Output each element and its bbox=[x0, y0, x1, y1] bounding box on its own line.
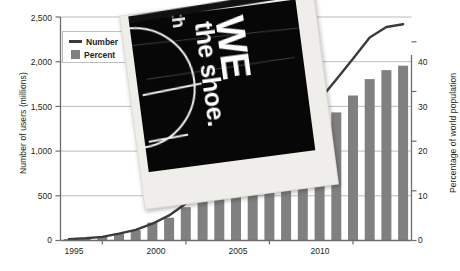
bar bbox=[164, 218, 174, 241]
bar bbox=[365, 79, 375, 240]
legend-item-number: Number bbox=[69, 35, 118, 48]
legend-label-number: Number bbox=[86, 37, 118, 47]
legend-item-percent: Percent bbox=[69, 48, 115, 61]
bar bbox=[398, 66, 408, 241]
bar bbox=[214, 194, 224, 241]
photo-image-area: th WE the shoe. bbox=[129, 0, 315, 172]
bar bbox=[181, 207, 191, 240]
bar bbox=[381, 70, 391, 240]
legend-line-swatch-icon bbox=[69, 40, 82, 43]
legend-label-percent: Percent bbox=[84, 50, 115, 60]
overlay-photo: th WE the shoe. bbox=[119, 0, 339, 210]
chart-figure: Number of users (millions) Percentage of… bbox=[0, 0, 460, 271]
bar bbox=[198, 201, 208, 241]
legend-square-swatch-icon bbox=[71, 50, 80, 59]
bar bbox=[348, 96, 358, 241]
